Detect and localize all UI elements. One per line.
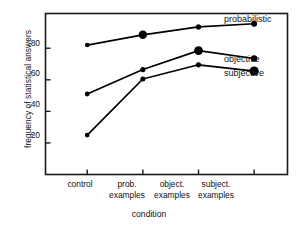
data-point-subjective-1 xyxy=(140,77,145,82)
plot-frame xyxy=(46,14,288,175)
x-tick-label-subject-examples: subject. examples xyxy=(181,179,251,200)
series-label-subjective: subjective xyxy=(224,68,264,78)
chart-figure: .80 .60 .40 .20 control prob. examples o… xyxy=(0,0,298,229)
x-tick-label-subject-line1: subject. xyxy=(181,179,251,190)
data-point-subjective-0 xyxy=(85,133,90,138)
data-point-probabilistic-2 xyxy=(196,24,201,29)
data-point-subjective-2 xyxy=(196,62,201,67)
y-axis-title: frequency of statistical answers xyxy=(23,9,33,169)
x-tick-label-subject-line2: examples xyxy=(181,190,251,201)
data-point-objective-0 xyxy=(85,92,90,97)
series-label-probabilistic: probabilistic xyxy=(224,14,272,24)
x-axis-title: condition xyxy=(0,209,298,219)
data-point-probabilistic-1 xyxy=(139,31,147,39)
data-point-objective-2 xyxy=(194,46,203,55)
series-label-objective: objective xyxy=(224,54,260,64)
data-point-probabilistic-0 xyxy=(85,43,90,48)
data-point-objective-1 xyxy=(140,67,145,72)
